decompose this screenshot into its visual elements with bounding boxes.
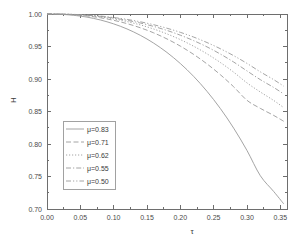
curve-055 [47,14,284,94]
y-tick-label: 0.95 [28,43,42,50]
x-tick-label: 0.00 [40,214,54,221]
x-tick-label: 0.35 [274,214,288,221]
x-tick-label: 0.20 [174,214,188,221]
legend: μ=0.83μ=0.71μ=0.62μ=0.55μ=0.50 [63,121,115,189]
legend-label: μ=0.55 [87,165,109,173]
y-tick-label: 0.85 [28,108,42,115]
y-tick-label: 0.70 [28,206,42,213]
x-tick-label: 0.10 [107,214,121,221]
legend-label: μ=0.71 [87,139,109,147]
chart-figure: 0.000.050.100.150.200.250.300.35 0.700.7… [0,0,303,243]
x-tick-label: 0.30 [240,214,254,221]
legend-label: μ=0.62 [87,152,109,160]
curve-062 [47,14,284,108]
x-tick-labels: 0.000.050.100.150.200.250.300.35 [40,214,287,221]
x-axis-label: τ [190,227,194,236]
y-tick-label: 0.80 [28,141,42,148]
y-tick-labels: 0.700.750.800.850.900.951.00 [28,11,42,213]
x-tick-label: 0.15 [140,214,154,221]
y-tick-label: 0.90 [28,76,42,83]
x-tick-label: 0.05 [74,214,88,221]
legend-label: μ=0.50 [87,178,109,186]
y-tick-label: 1.00 [28,11,42,18]
line-chart: 0.000.050.100.150.200.250.300.35 0.700.7… [0,0,303,243]
x-tick-label: 0.25 [207,214,221,221]
y-axis-label: H [9,97,18,103]
curve-050 [47,14,284,86]
legend-label: μ=0.83 [87,126,109,134]
y-tick-label: 0.75 [28,173,42,180]
